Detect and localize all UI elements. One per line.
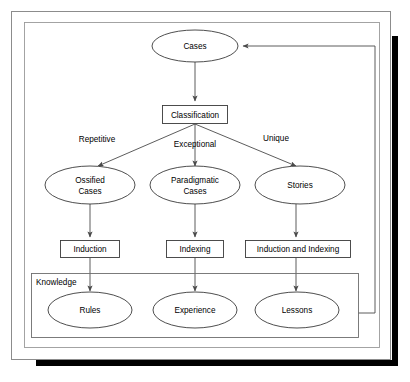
node-cases[interactable]: Cases (152, 30, 238, 62)
shadow-bar-right (392, 36, 398, 366)
induction-and-indexing-label: Induction and Indexing (257, 245, 340, 254)
induction-label: Induction (73, 245, 107, 254)
paradigmatic-cases-label-line2: Cases (183, 187, 206, 196)
stories-label: Stories (287, 181, 312, 190)
flow-diagram: Knowledge Cases Classification Repetitiv… (0, 0, 410, 382)
ossified-cases-label-line1: Ossified (75, 176, 105, 185)
ossified-cases-ellipse-shape (45, 166, 135, 204)
node-ossified-cases[interactable]: Ossified Cases (45, 166, 135, 204)
rules-label: Rules (80, 306, 101, 315)
node-classification[interactable]: Classification (163, 106, 228, 124)
experience-label: Experience (175, 306, 216, 315)
cases-label: Cases (183, 42, 206, 51)
shadow-bar-bottom (36, 360, 398, 366)
paradigmatic-cases-label-line1: Paradigmatic (171, 176, 219, 185)
node-experience[interactable]: Experience (153, 292, 237, 328)
diagram-canvas: Knowledge Cases Classification Repetitiv… (0, 0, 410, 382)
node-paradigmatic-cases[interactable]: Paradigmatic Cases (150, 166, 240, 204)
indexing-label: Indexing (180, 245, 211, 254)
node-induction-and-indexing[interactable]: Induction and Indexing (246, 241, 351, 258)
node-induction[interactable]: Induction (61, 241, 120, 258)
edge-label-exceptional: Exceptional (174, 140, 217, 149)
edge-label-repetitive: Repetitive (79, 135, 116, 144)
node-lessons[interactable]: Lessons (255, 292, 339, 328)
ossified-cases-label-line2: Cases (78, 187, 101, 196)
classification-label: Classification (171, 111, 220, 120)
edge-label-unique: Unique (263, 134, 289, 143)
knowledge-group-label: Knowledge (36, 278, 77, 287)
node-stories[interactable]: Stories (255, 166, 345, 204)
lessons-label: Lessons (282, 306, 313, 315)
node-rules[interactable]: Rules (48, 292, 132, 328)
node-indexing[interactable]: Indexing (167, 241, 224, 258)
paradigmatic-cases-ellipse-shape (150, 166, 240, 204)
